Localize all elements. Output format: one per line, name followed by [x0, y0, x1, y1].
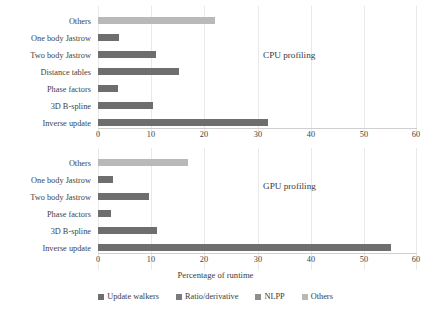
profiling-bar-chart-figure: Others One body Jastrow Two body Jastrow…	[0, 0, 431, 323]
legend-label-ratio-derivative: Ratio/derivative	[185, 292, 238, 301]
cpu-ylabel-distance-tables: Distance tables	[0, 68, 91, 77]
gpu-category-labels: Others One body Jastrow Two body Jastrow…	[0, 148, 94, 270]
gridline-60	[416, 148, 417, 270]
gridline-30	[258, 6, 259, 136]
gpu-ylabel-inverse-update: Inverse update	[0, 244, 91, 253]
cpu-ylabel-phase-factors: Phase factors	[0, 85, 91, 94]
legend-swatch-icon	[176, 294, 182, 300]
bar-gpu-others	[98, 159, 188, 166]
bar-cpu-one-body-jastrow	[98, 34, 119, 41]
gpu-panel-title: GPU profiling	[263, 181, 316, 191]
cpu-ylabel-others: Others	[0, 17, 91, 26]
legend-swatch-icon	[302, 294, 308, 300]
bar-cpu-others	[98, 17, 215, 24]
cpu-tick-10: 10	[136, 130, 166, 139]
cpu-plot-area	[98, 6, 417, 136]
bar-cpu-distance-tables	[98, 68, 179, 75]
cpu-profiling-panel: Others One body Jastrow Two body Jastrow…	[0, 6, 431, 136]
gpu-ylabel-3d-b-spline: 3D B-spline	[0, 227, 91, 236]
gpu-tick-0: 0	[83, 255, 113, 264]
bar-gpu-inverse-update	[98, 244, 391, 251]
cpu-ylabel-one-body-jastrow: One body Jastrow	[0, 34, 91, 43]
cpu-ylabel-inverse-update: Inverse update	[0, 119, 91, 128]
gpu-ylabel-phase-factors: Phase factors	[0, 210, 91, 219]
cpu-ylabel-two-body-jastrow: Two body Jastrow	[0, 51, 91, 60]
legend-swatch-icon	[255, 294, 261, 300]
cpu-panel-title: CPU profiling	[263, 50, 315, 60]
cpu-tick-20: 20	[189, 130, 219, 139]
gpu-plot-area	[98, 148, 417, 270]
gpu-tick-10: 10	[136, 255, 166, 264]
cpu-category-labels: Others One body Jastrow Two body Jastrow…	[0, 6, 94, 136]
legend-swatch-icon	[98, 294, 104, 300]
cpu-tick-30: 30	[243, 130, 273, 139]
gpu-ylabel-others: Others	[0, 159, 91, 168]
gridline-10	[151, 148, 152, 270]
chart-legend: Update walkers Ratio/derivative NLPP Oth…	[0, 292, 431, 301]
gpu-ylabel-one-body-jastrow: One body Jastrow	[0, 176, 91, 185]
cpu-tick-50: 50	[349, 130, 379, 139]
legend-item-ratio-derivative: Ratio/derivative	[176, 292, 238, 301]
bar-gpu-one-body-jastrow	[98, 176, 113, 183]
bar-gpu-phase-factors	[98, 210, 111, 217]
gridline-20	[204, 148, 205, 270]
cpu-ylabel-3d-b-spline: 3D B-spline	[0, 102, 91, 111]
bar-cpu-two-body-jastrow	[98, 51, 156, 58]
gridline-0	[98, 148, 99, 270]
cpu-tick-40: 40	[296, 130, 326, 139]
gpu-profiling-panel: Others One body Jastrow Two body Jastrow…	[0, 148, 431, 270]
gpu-tick-50: 50	[349, 255, 379, 264]
gridline-50	[364, 6, 365, 136]
gridline-50	[364, 148, 365, 270]
legend-item-nlpp: NLPP	[255, 292, 284, 301]
gpu-tick-40: 40	[296, 255, 326, 264]
bar-cpu-3d-b-spline	[98, 102, 153, 109]
gridline-60	[416, 6, 417, 136]
gridline-20	[204, 6, 205, 136]
gpu-x-axis-line	[98, 253, 417, 254]
cpu-tick-0: 0	[83, 130, 113, 139]
gpu-tick-30: 30	[243, 255, 273, 264]
gpu-tick-60: 60	[401, 255, 431, 264]
bar-gpu-3d-b-spline	[98, 227, 157, 234]
gridline-40	[311, 148, 312, 270]
gpu-tick-20: 20	[189, 255, 219, 264]
legend-item-others: Others	[302, 292, 333, 301]
legend-item-update-walkers: Update walkers	[98, 292, 159, 301]
bar-gpu-two-body-jastrow	[98, 193, 149, 200]
cpu-tick-60: 60	[401, 130, 431, 139]
gpu-ylabel-two-body-jastrow: Two body Jastrow	[0, 193, 91, 202]
bar-cpu-inverse-update	[98, 119, 268, 126]
legend-label-others: Others	[311, 292, 333, 301]
legend-label-update-walkers: Update walkers	[107, 292, 159, 301]
legend-label-nlpp: NLPP	[264, 292, 284, 301]
x-axis-title: Percentage of runtime	[0, 270, 431, 280]
gridline-30	[258, 148, 259, 270]
gridline-40	[311, 6, 312, 136]
cpu-x-axis-line	[98, 128, 417, 129]
bar-cpu-phase-factors	[98, 85, 118, 92]
